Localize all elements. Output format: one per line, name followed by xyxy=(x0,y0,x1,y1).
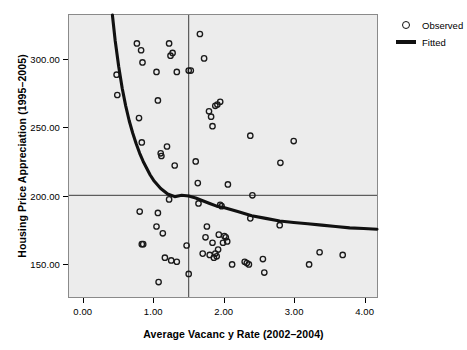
plot-area xyxy=(68,14,378,298)
x-tick-label: 4.00 xyxy=(355,306,374,317)
x-tick-label: 0.00 xyxy=(73,306,92,317)
x-tick-label: 1.00 xyxy=(144,306,163,317)
x-tick-mark xyxy=(365,298,366,303)
y-tick-label: 150.00 xyxy=(30,258,60,269)
chart-legend: Observed Fitted xyxy=(395,18,463,52)
line-swatch-icon xyxy=(395,40,417,43)
y-tick-label: 200.00 xyxy=(30,190,60,201)
legend-item-fitted: Fitted xyxy=(395,35,463,49)
legend-label-observed: Observed xyxy=(422,20,463,31)
open-circle-icon xyxy=(395,21,417,29)
x-tick-label: 2.00 xyxy=(214,306,233,317)
y-tick-label: 300.00 xyxy=(30,54,60,65)
x-tick-mark xyxy=(153,298,154,303)
x-axis-title: Average Vacanc y Rate (2002–2004) xyxy=(0,328,467,340)
x-tick-mark xyxy=(224,298,225,303)
x-tick-label: 3.00 xyxy=(285,306,304,317)
x-tick-mark xyxy=(83,298,84,303)
plot-canvas xyxy=(69,15,377,297)
y-axis-title: Housing Price Appreciation (1995–2005) xyxy=(16,54,28,258)
chart-container: Housing Price Appreciation (1995–2005) 1… xyxy=(0,0,467,350)
legend-label-fitted: Fitted xyxy=(422,37,446,48)
y-tick-label: 250.00 xyxy=(30,122,60,133)
x-tick-mark xyxy=(294,298,295,303)
legend-item-observed: Observed xyxy=(395,18,463,32)
